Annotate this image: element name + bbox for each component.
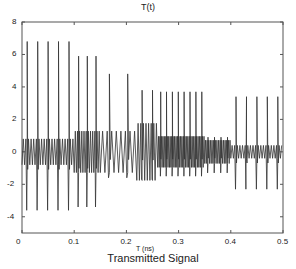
y-tick-label: 0: [12, 147, 16, 156]
y-tick-label: 4: [12, 82, 16, 91]
y-tick-label: 6: [12, 49, 16, 58]
x-axis-label: T (ns): [136, 245, 154, 252]
x-tick-label: 0.5: [277, 237, 288, 246]
x-tick-label: 0.2: [120, 237, 131, 246]
y-tick-label: 2: [12, 114, 16, 123]
x-tick-label: 0.4: [225, 237, 236, 246]
x-tick-label: 0: [16, 237, 20, 246]
chart-plot: [0, 0, 296, 269]
chart-caption: Transmitted Signal: [0, 252, 296, 264]
signal-line: [22, 42, 282, 211]
y-tick-label: 8: [12, 17, 16, 26]
chart-title: T(t): [0, 2, 296, 12]
y-tick-label: -4: [7, 212, 14, 221]
x-tick-label: 0.3: [173, 237, 184, 246]
y-tick-label: -2: [7, 179, 14, 188]
x-tick-label: 0.1: [68, 237, 79, 246]
